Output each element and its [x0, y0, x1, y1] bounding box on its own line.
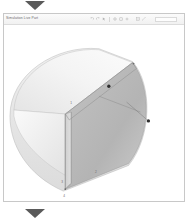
toolbar-divider: [109, 17, 110, 22]
vertex-marker-bottom: [64, 188, 66, 190]
app-root: Simulation Live Part: [0, 0, 188, 222]
measure-icon[interactable]: [142, 17, 146, 21]
document-page: Simulation Live Part: [3, 13, 185, 202]
point-marker-a[interactable]: [107, 85, 110, 88]
toolbar-group-right: [136, 17, 146, 21]
previous-page-triangle[interactable]: [25, 1, 45, 10]
document-toolbar: Simulation Live Part: [4, 14, 184, 25]
label-bottom: 4: [63, 194, 65, 198]
cursor-icon[interactable]: [102, 17, 106, 21]
vertex-marker-top: [133, 63, 135, 65]
rotate-icon[interactable]: [113, 17, 117, 21]
figure-canvas[interactable]: 1 2 3 4: [4, 25, 184, 201]
label-front-face: 2: [95, 170, 97, 174]
next-page-triangle[interactable]: [25, 209, 45, 218]
document-title: Simulation Live Part: [6, 17, 38, 20]
toolbar-group-left: [90, 17, 129, 22]
label-left-edge: 3: [61, 180, 63, 184]
label-top-face: 1: [70, 101, 72, 105]
point-marker-b[interactable]: [147, 119, 150, 122]
redo-icon[interactable]: [96, 17, 100, 21]
undo-icon[interactable]: [90, 17, 94, 21]
pan-icon[interactable]: [119, 17, 123, 21]
section-icon[interactable]: [136, 17, 140, 21]
inner-rib-face: [65, 112, 71, 189]
solid-geometry-figure: 1 2 3 4: [4, 25, 184, 201]
zoom-in-icon[interactable]: [125, 17, 129, 21]
zoom-level-field[interactable]: [155, 17, 177, 22]
